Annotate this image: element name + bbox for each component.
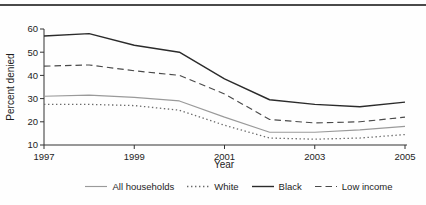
- y-axis-title: Percent denied: [5, 53, 16, 120]
- y-tick-label: 20: [27, 116, 38, 127]
- y-tick-label: 30: [27, 93, 38, 104]
- x-tick-label: 1997: [33, 151, 54, 162]
- legend-item-low-income: Low income: [315, 181, 393, 192]
- legend-label-white: White: [214, 181, 238, 192]
- legend-line-swatch-black: [252, 183, 274, 190]
- legend-line-swatch-low-income: [315, 183, 337, 190]
- y-tick-label: 60: [27, 23, 38, 34]
- series-line-all-households: [44, 95, 405, 132]
- denial-rate-line-chart: Percent denied Year 10203040506019971999…: [0, 4, 426, 176]
- x-tick-label: 2001: [214, 151, 235, 162]
- legend-item-white: White: [187, 181, 238, 192]
- legend-label-all-households: All households: [112, 181, 174, 192]
- legend-item-all-households: All households: [85, 181, 174, 192]
- x-tick-label: 2003: [304, 151, 325, 162]
- figure-panel: Percent denied Year 10203040506019971999…: [0, 0, 426, 205]
- legend-line-swatch-white: [187, 183, 209, 190]
- legend-item-black: Black: [252, 181, 302, 192]
- legend-line-swatch-all-households: [85, 183, 107, 190]
- x-tick-label: 2005: [394, 151, 415, 162]
- y-tick-label: 50: [27, 47, 38, 58]
- chart-legend: All householdsWhiteBlackLow income: [52, 181, 426, 192]
- x-tick-label: 1999: [124, 151, 145, 162]
- legend-label-black: Black: [279, 181, 302, 192]
- y-tick-label: 10: [27, 139, 38, 150]
- legend-label-low-income: Low income: [342, 181, 393, 192]
- data-series: [44, 34, 405, 140]
- y-tick-label: 40: [27, 70, 38, 81]
- series-line-low-income: [44, 65, 405, 123]
